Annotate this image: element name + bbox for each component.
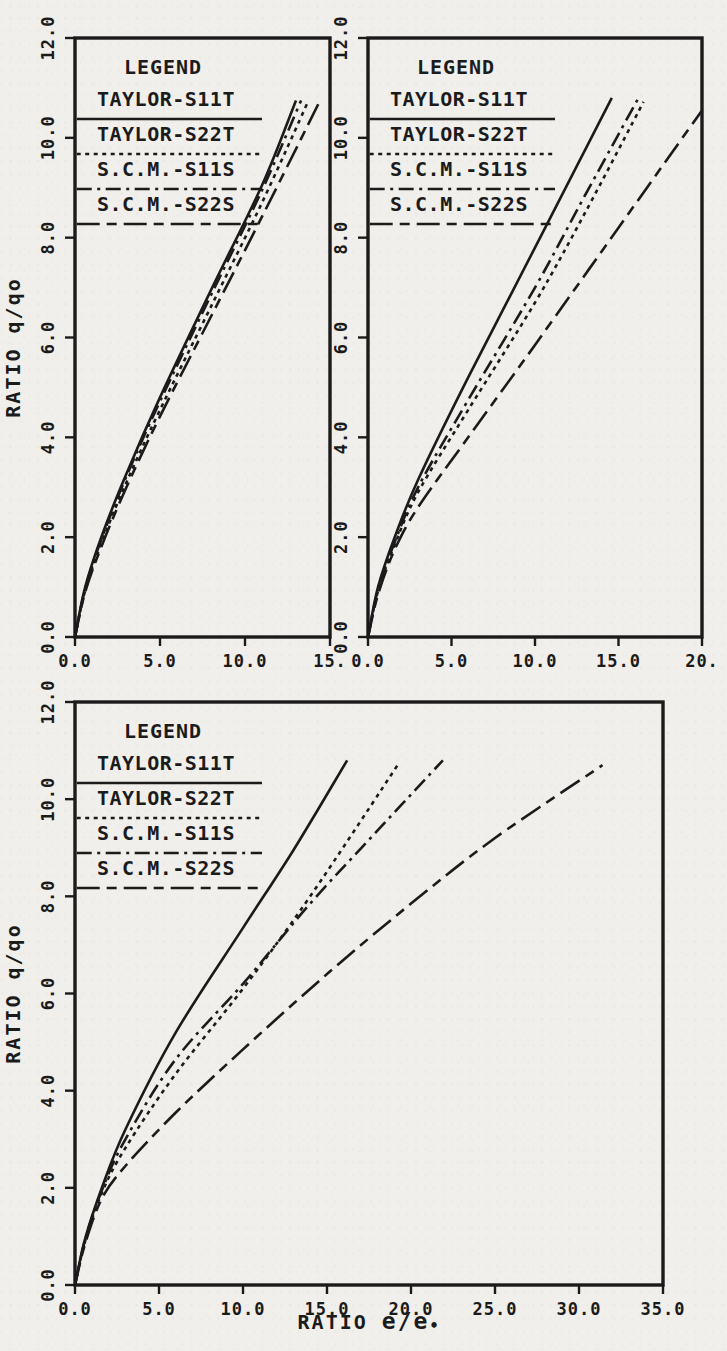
y-tick-label: 0.0 xyxy=(38,1268,58,1302)
legend-label-TAYLOR-S11T: TAYLOR-S11T xyxy=(97,87,235,111)
y-axis-title: RATIO q/qo xyxy=(1,277,25,417)
legend-title: LEGEND xyxy=(124,55,202,79)
scanned-figure-page: 0.05.010.015.0.02.04.06.08.010.012.0RATI… xyxy=(0,0,727,1351)
y-tick-label: 2.0 xyxy=(331,520,351,554)
legend-label-S.C.M.-S22S: S.C.M.-S22S xyxy=(390,192,528,216)
figure-canvas: 0.05.010.015.0.02.04.06.08.010.012.0RATI… xyxy=(0,0,727,1351)
legend-label-TAYLOR-S11T: TAYLOR-S11T xyxy=(390,87,528,111)
legend-label-S.C.M.-S11S: S.C.M.-S11S xyxy=(97,157,235,181)
x-tick-label: 10.0 xyxy=(513,651,558,671)
series-TAYLOR-S22T xyxy=(368,102,644,637)
x-tick-label: 0.0 xyxy=(58,1299,92,1319)
y-tick-label: 12.0 xyxy=(331,16,351,61)
legend-label-TAYLOR-S11T: TAYLOR-S11T xyxy=(97,751,235,775)
x-tick-label: 10.0 xyxy=(221,1299,266,1319)
x-tick-label: 10.0 xyxy=(223,651,268,671)
y-tick-label: 0.0 xyxy=(38,620,58,654)
y-tick-label: 6.0 xyxy=(331,321,351,355)
series-S.C.M.-S22S xyxy=(75,103,319,637)
legend-label-TAYLOR-S22T: TAYLOR-S22T xyxy=(97,786,235,810)
y-tick-label: 2.0 xyxy=(38,520,58,554)
chart-top-left: 0.05.010.015.0.02.04.06.08.010.012.0RATI… xyxy=(1,16,347,671)
y-tick-label: 4.0 xyxy=(38,1074,58,1108)
y-tick-label: 0.0 xyxy=(331,620,351,654)
x-tick-label: 5.0 xyxy=(435,651,469,671)
y-tick-label: 10.0 xyxy=(38,115,58,160)
legend: LEGENDTAYLOR-S11TTAYLOR-S22TS.C.M.-S11SS… xyxy=(77,719,262,888)
y-tick-label: 10.0 xyxy=(38,777,58,822)
y-tick-label: 12.0 xyxy=(38,680,58,725)
legend: LEGENDTAYLOR-S11TTAYLOR-S22TS.C.M.-S11SS… xyxy=(77,55,262,224)
x-tick-label: 15.0 xyxy=(596,651,641,671)
legend-title: LEGEND xyxy=(417,55,495,79)
x-tick-label: 20. xyxy=(685,651,719,671)
y-tick-label: 2.0 xyxy=(38,1171,58,1205)
y-tick-label: 10.0 xyxy=(331,115,351,160)
y-tick-label: 8.0 xyxy=(38,221,58,255)
x-axis-title: RATIO e/e• xyxy=(298,1308,441,1335)
x-tick-label: 5.0 xyxy=(143,651,177,671)
y-tick-label: 4.0 xyxy=(38,420,58,454)
y-axis-title: RATIO q/qo xyxy=(1,923,25,1063)
chart-top-right: 0.05.010.015.020.0.02.04.06.08.010.012.0… xyxy=(331,16,719,671)
y-tick-label: 6.0 xyxy=(38,321,58,355)
x-tick-label: 30.0 xyxy=(557,1299,602,1319)
series-S.C.M.-S22S xyxy=(368,110,702,637)
legend-title: LEGEND xyxy=(124,719,202,743)
legend-label-S.C.M.-S22S: S.C.M.-S22S xyxy=(97,192,235,216)
legend-label-S.C.M.-S11S: S.C.M.-S11S xyxy=(390,157,528,181)
legend: LEGENDTAYLOR-S11TTAYLOR-S22TS.C.M.-S11SS… xyxy=(370,55,555,224)
x-tick-label: 25.0 xyxy=(473,1299,518,1319)
legend-label-TAYLOR-S22T: TAYLOR-S22T xyxy=(390,122,528,146)
y-tick-label: 12.0 xyxy=(38,16,58,61)
x-tick-label: 0.0 xyxy=(58,651,92,671)
legend-label-S.C.M.-S11S: S.C.M.-S11S xyxy=(97,821,235,845)
legend-label-S.C.M.-S22S: S.C.M.-S22S xyxy=(97,856,235,880)
legend-label-TAYLOR-S22T: TAYLOR-S22T xyxy=(97,122,235,146)
x-tick-label: 5.0 xyxy=(142,1299,176,1319)
y-tick-label: 8.0 xyxy=(331,221,351,255)
y-tick-label: 8.0 xyxy=(38,879,58,913)
chart-bottom: 0.05.010.015.020.025.030.035.00.02.04.06… xyxy=(1,680,685,1335)
x-tick-label: 35.0 xyxy=(641,1299,686,1319)
series-TAYLOR-S22T xyxy=(75,102,308,637)
y-tick-label: 6.0 xyxy=(38,977,58,1011)
x-tick-label: 0.0 xyxy=(351,651,385,671)
y-tick-label: 4.0 xyxy=(331,420,351,454)
